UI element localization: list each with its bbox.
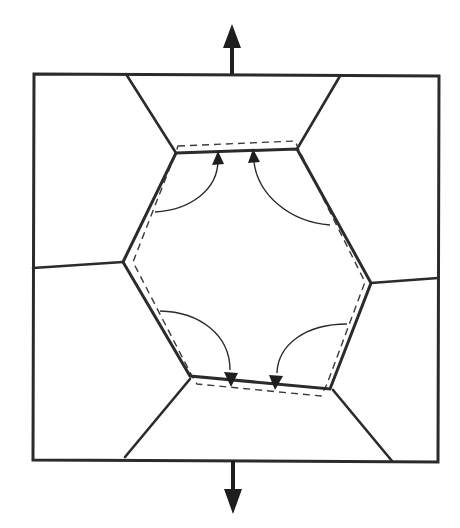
flux-arrow-top-right [254,162,330,225]
load-arrow-bottom [224,461,242,514]
grain-boundary-right [371,278,438,283]
grain-boundary-bottom-left [125,379,190,457]
hexagonal-void [123,149,371,389]
flux-arrow-top-left [155,160,218,212]
outer-grain-frame [33,74,439,462]
dashed-void-outline [133,141,365,396]
load-arrow-top [223,24,241,75]
grain-boundary-left [33,262,123,268]
arrow-up-icon [223,24,241,48]
flux-arrow-bottom-right [277,324,347,373]
grain-boundary-bottom-right [333,390,392,461]
grain-boundary-top-left [126,74,176,153]
grain-void-diagram [0,0,460,528]
arrow-down-icon [224,489,242,514]
grain-boundary-top-right [297,76,340,149]
flux-arrows-bottom [160,311,347,390]
grain-boundaries [33,74,438,461]
